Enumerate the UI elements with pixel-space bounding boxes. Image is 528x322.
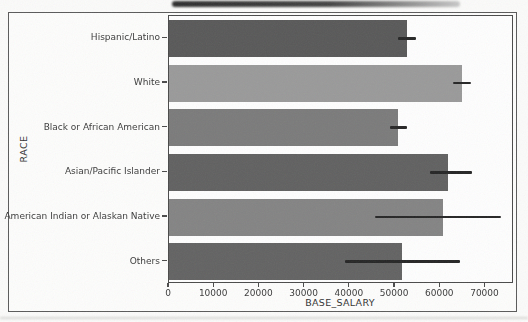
y-tick-label: Others xyxy=(0,255,160,267)
y-axis-label: RACE xyxy=(18,136,29,163)
x-tick-mark xyxy=(303,283,304,287)
x-tick-mark xyxy=(439,283,440,287)
y-tick-label: Asian/Pacific Islander xyxy=(0,165,160,177)
y-tick-label: Black or African American xyxy=(0,121,160,133)
x-axis-label: BASE_SALARY xyxy=(280,297,400,308)
bar xyxy=(169,20,407,57)
bar xyxy=(169,65,462,102)
figure: RACE BASE_SALARY Hispanic/LatinoWhiteBla… xyxy=(0,0,528,322)
y-tick-mark xyxy=(162,171,167,172)
y-tick-label: Hispanic/Latino xyxy=(0,31,160,43)
x-tick-mark xyxy=(213,283,214,287)
y-tick-label: American Indian or Alaskan Native xyxy=(0,210,160,222)
x-tick-mark xyxy=(393,283,394,287)
y-tick-mark xyxy=(162,215,167,216)
bar xyxy=(169,154,448,191)
bar xyxy=(169,109,398,146)
y-tick-mark xyxy=(162,260,167,261)
y-tick-mark xyxy=(162,37,167,38)
x-tick-mark xyxy=(167,283,168,287)
y-tick-mark xyxy=(162,81,167,82)
photo-edge-artifact-bottom xyxy=(0,317,528,319)
chart-photo: RACE BASE_SALARY Hispanic/LatinoWhiteBla… xyxy=(0,0,528,322)
x-tick-mark xyxy=(258,283,259,287)
x-tick-label: 70000 xyxy=(455,288,515,298)
y-tick-label: White xyxy=(0,76,160,88)
error-bar xyxy=(345,260,460,262)
error-bar xyxy=(375,216,501,218)
error-bar xyxy=(453,82,471,84)
plot-area xyxy=(168,15,513,283)
photo-edge-artifact-top xyxy=(172,1,460,7)
x-tick-mark xyxy=(484,283,485,287)
y-tick-mark xyxy=(162,126,167,127)
x-tick-mark xyxy=(348,283,349,287)
error-bar xyxy=(398,37,416,39)
error-bar xyxy=(430,171,472,173)
error-bar xyxy=(390,126,407,128)
